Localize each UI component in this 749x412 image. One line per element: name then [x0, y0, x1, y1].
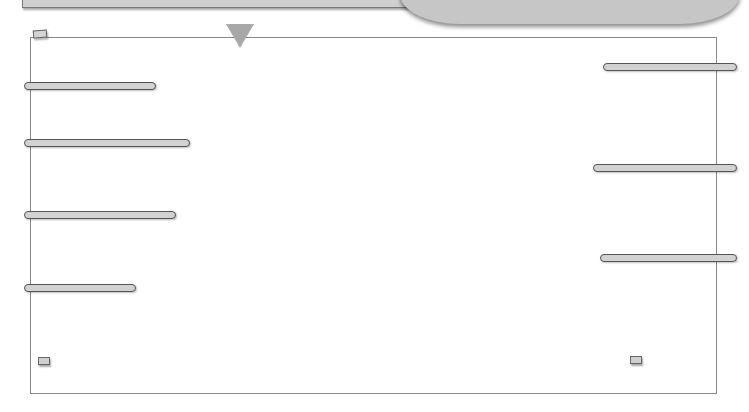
callout-equal-numbers: [593, 164, 737, 172]
effects-label: [630, 356, 642, 364]
callout-child-producing: [24, 211, 176, 219]
callout-few-children-die: [24, 284, 136, 292]
callout-tall-narrow: [24, 139, 190, 147]
callout-elderly: [603, 63, 737, 71]
population-pyramid-chart: [0, 0, 749, 412]
callout-wide-top: [24, 82, 156, 90]
chart-tag: [33, 30, 48, 39]
description-label: [38, 357, 50, 365]
figure-marker-triangle: [226, 24, 254, 48]
callout-narrow-base: [600, 254, 737, 262]
